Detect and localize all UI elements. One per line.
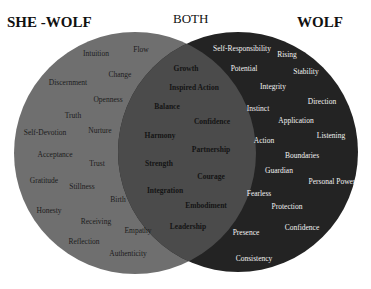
wolf-word: Integrity: [260, 82, 286, 91]
she-wolf-word: Authenticity: [109, 249, 147, 258]
wolf-word: Guardian: [265, 166, 293, 175]
wolf-heading: WOLF: [297, 14, 343, 31]
wolf-word: Potential: [231, 64, 258, 73]
wolf-word: Direction: [308, 97, 336, 106]
both-heading: BOTH: [173, 11, 208, 27]
she-wolf-word: Receiving: [81, 217, 111, 226]
venn-diagram: SHE -WOLF BOTH WOLF IntuitionFlowChangeD…: [0, 0, 371, 289]
both-word: Growth: [174, 64, 199, 73]
both-word: Embodiment: [185, 201, 227, 210]
both-word: Confidence: [194, 117, 230, 126]
she-wolf-word: Honesty: [37, 206, 62, 215]
she-wolf-word: Change: [109, 70, 132, 79]
wolf-word: Consistency: [236, 254, 273, 263]
she-wolf-word: Flow: [133, 45, 148, 54]
wolf-word: Self-Responsibility: [213, 44, 271, 53]
she-wolf-word: Discernment: [49, 78, 87, 87]
she-wolf-word: Birth: [110, 195, 125, 204]
she-wolf-heading: SHE -WOLF: [7, 14, 92, 31]
wolf-word: Listening: [317, 131, 345, 140]
both-word: Partnership: [192, 145, 230, 154]
wolf-word: Confidence: [285, 223, 320, 232]
she-wolf-word: Nurture: [88, 126, 111, 135]
she-wolf-word: Acceptance: [38, 150, 73, 159]
wolf-word: Rising: [277, 50, 297, 59]
wolf-word: Fearless: [247, 189, 272, 198]
she-wolf-word: Intuition: [83, 49, 109, 58]
she-wolf-word: Empathy: [124, 226, 151, 235]
wolf-word: Action: [254, 136, 274, 145]
both-word: Strength: [145, 159, 173, 168]
wolf-word: Stability: [293, 67, 318, 76]
she-wolf-word: Stillness: [69, 182, 94, 191]
she-wolf-word: Self-Devotion: [24, 128, 67, 137]
wolf-word: Boundaries: [285, 151, 319, 160]
wolf-word: Application: [278, 116, 313, 125]
both-word: Inspired Action: [169, 83, 219, 92]
wolf-word: Presence: [233, 228, 260, 237]
both-word: Integration: [147, 186, 183, 195]
both-word: Balance: [154, 102, 179, 111]
she-wolf-word: Trust: [89, 159, 105, 168]
wolf-word: Instinct: [247, 104, 270, 113]
venn-circles: [0, 0, 371, 289]
wolf-word: Personal Power: [309, 177, 356, 186]
she-wolf-word: Gratitude: [30, 176, 58, 185]
both-word: Harmony: [145, 131, 176, 140]
she-wolf-word: Openness: [93, 95, 122, 104]
she-wolf-word: Truth: [65, 111, 81, 120]
she-wolf-word: Reflection: [68, 237, 99, 246]
wolf-word: Protection: [272, 202, 303, 211]
both-word: Leadership: [170, 222, 206, 231]
both-word: Courage: [197, 172, 225, 181]
